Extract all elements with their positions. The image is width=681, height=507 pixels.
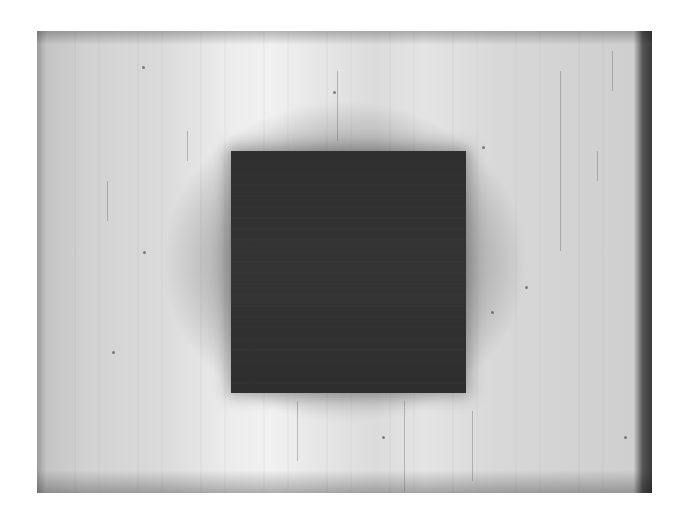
scratch-mark	[560, 71, 561, 251]
scratch-mark	[187, 131, 188, 161]
dust-speck	[491, 311, 494, 314]
dust-speck	[143, 251, 146, 254]
scratch-mark	[472, 411, 473, 481]
dust-speck	[482, 146, 485, 149]
scratch-mark	[612, 51, 613, 91]
image-canvas	[0, 0, 681, 507]
scratch-mark	[337, 71, 338, 141]
scratch-mark	[597, 151, 598, 181]
scratch-mark	[297, 401, 298, 461]
dark-square-object	[231, 151, 466, 393]
photograph	[37, 31, 652, 493]
dust-speck	[112, 351, 115, 354]
dust-speck	[382, 436, 385, 439]
dust-speck	[333, 91, 336, 94]
scratch-mark	[404, 401, 405, 491]
dust-speck	[142, 66, 145, 69]
dust-speck	[624, 436, 627, 439]
dust-speck	[525, 286, 528, 289]
scratch-mark	[107, 181, 108, 221]
